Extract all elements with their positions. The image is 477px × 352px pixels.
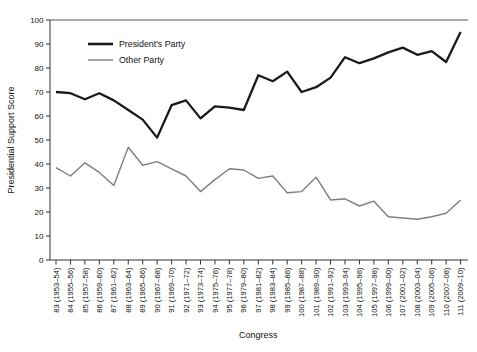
x-axis-title: Congress — [239, 330, 278, 340]
x-tick-label: 83 (1953–54) — [52, 267, 61, 313]
x-tick-label: 111 (2009–10) — [456, 267, 465, 316]
x-tick-label: 90 (1967–68) — [153, 267, 162, 313]
x-tick-label: 92 (1971–72) — [182, 267, 191, 313]
y-axis-title: Presidential Support Score — [6, 86, 16, 193]
x-tick-label: 88 (1963–64) — [124, 267, 133, 313]
series-line-president-s-party — [56, 32, 461, 138]
x-tick-label: 106 (1999–00) — [384, 267, 393, 317]
x-tick-label: 95 (1977–78) — [225, 267, 234, 313]
y-tick-label: 30 — [35, 184, 44, 193]
x-tick-label: 101 (1989–90) — [312, 267, 321, 317]
y-tick-label: 20 — [35, 208, 44, 217]
y-tick-label: 0 — [39, 256, 44, 265]
x-tick-label: 110 (2007–08) — [442, 267, 451, 316]
y-tick-label: 70 — [35, 88, 44, 97]
x-tick-label: 98 (1983–84) — [268, 267, 277, 313]
legend-label-president-s-party: President's Party — [119, 39, 186, 49]
legend-label-other-party: Other Party — [119, 55, 165, 65]
x-tick-label: 89 (1965–66) — [138, 267, 147, 313]
x-tick-label: 86 (1959–60) — [95, 267, 104, 313]
x-tick-label: 100 (1987–88) — [297, 267, 306, 317]
x-tick-label: 84 (1955–56) — [66, 267, 75, 313]
x-tick-label: 107 (2001–02) — [398, 267, 407, 317]
chart-figure: 010203040506070809010083 (1953–54)84 (19… — [0, 0, 477, 352]
x-tick-label: 102 (1991–92) — [326, 267, 335, 317]
y-tick-label: 100 — [30, 16, 44, 25]
x-tick-label: 99 (1985–86) — [283, 267, 292, 313]
y-tick-label: 50 — [35, 136, 44, 145]
y-tick-label: 10 — [35, 232, 44, 241]
x-tick-label: 109 (2005–06) — [427, 267, 436, 317]
x-tick-label: 93 (1973–74) — [196, 267, 205, 313]
x-tick-label: 103 (1993–94) — [341, 267, 350, 317]
line-chart: 010203040506070809010083 (1953–54)84 (19… — [0, 0, 477, 352]
x-tick-label: 104 (1995–96) — [355, 267, 364, 317]
x-tick-label: 96 (1979–80) — [239, 267, 248, 313]
x-tick-label: 97 (1981–82) — [254, 267, 263, 313]
x-tick-label: 94 (1975–76) — [211, 267, 220, 313]
x-tick-label: 85 (1957–58) — [81, 267, 90, 313]
x-tick-label: 87 (1961–62) — [109, 267, 118, 313]
x-tick-label: 105 (1997–98) — [370, 267, 379, 317]
y-tick-label: 90 — [35, 40, 44, 49]
x-tick-label: 91 (1969–70) — [167, 267, 176, 313]
y-tick-label: 80 — [35, 64, 44, 73]
legend: President's PartyOther Party — [88, 39, 186, 65]
y-tick-label: 60 — [35, 112, 44, 121]
x-tick-label: 108 (2003–04) — [413, 267, 422, 317]
series-line-other-party — [56, 147, 461, 219]
y-tick-label: 40 — [35, 160, 44, 169]
